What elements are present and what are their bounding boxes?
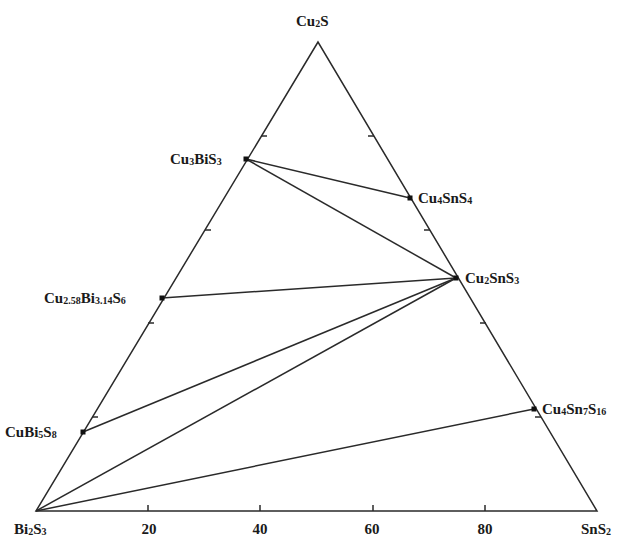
point-cu3bis3 [244,157,249,162]
tie-line-bi2s3-cu4sn7s16 [36,409,534,511]
tie-line-cubi5s8-cu2sns3 [83,278,456,432]
point-cu2sns3 [454,276,459,281]
tick-label-20: 20 [142,522,157,537]
vertex-label-sns2: SnS2 [581,522,611,537]
ternary-diagram-canvas [0,0,641,560]
phase-label-cubi5s8: CuBi5S8 [5,425,57,440]
point-cu258bi314s6 [160,296,165,301]
tick-label-80: 80 [478,522,493,537]
bottom-axis-ticks [148,505,485,511]
tick-label-60: 60 [365,522,380,537]
point-cu4sns4 [408,196,413,201]
point-cu4sn7s16 [532,407,537,412]
tie-lines [36,159,534,511]
point-cubi5s8 [81,430,86,435]
phase-label-cu258bi314s6: Cu2.58Bi3.14S6 [44,291,126,306]
phase-label-cu4sns4: Cu4SnS4 [418,191,472,206]
tie-line-bi2s3-cu2sns3 [36,278,456,511]
tie-line-cu3bis3-cu2sns3 [246,159,456,278]
tie-line-cu3bis3-cu4sns4 [246,159,410,198]
phase-label-cu3bis3: Cu3BiS3 [170,152,222,167]
tick-label-40: 40 [253,522,268,537]
tie-line-cu258bi314s6-cu2sns3 [162,278,456,298]
vertex-label-bi2s3: Bi2S3 [14,522,47,537]
vertex-label-cu2s: Cu2S [296,14,329,29]
phase-label-cu4sn7s16: Cu4Sn7S16 [542,402,606,417]
phase-label-cu2sns3: Cu2SnS3 [465,271,519,286]
